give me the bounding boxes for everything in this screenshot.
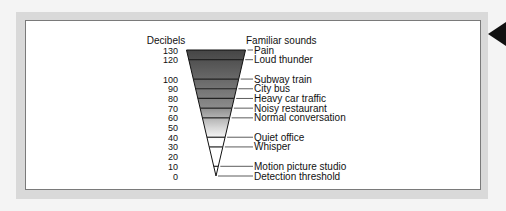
scale-tick: 70 [168,104,178,114]
sound-label: Normal conversation [254,112,346,123]
decibel-scale: 1301201009080706050403020100 [163,46,178,182]
scale-tick: 100 [163,75,178,85]
scale-tick: 10 [168,162,178,172]
sound-label: Detection threshold [254,171,340,182]
sound-label: Loud thunder [254,54,314,65]
funnel [187,50,246,176]
scale-tick: 120 [163,55,178,65]
scale-tick: 130 [163,46,178,56]
scale-tick: 0 [173,172,178,182]
scale-tick: 30 [168,142,178,152]
scale-tick: 50 [168,123,178,133]
sound-label: Whisper [254,141,291,152]
decibels-header: Decibels [147,35,185,46]
scale-tick: 90 [168,84,178,94]
scale-tick: 40 [168,133,178,143]
scale-tick: 80 [168,94,178,104]
scale-tick: 60 [168,113,178,123]
scale-tick: 20 [168,152,178,162]
